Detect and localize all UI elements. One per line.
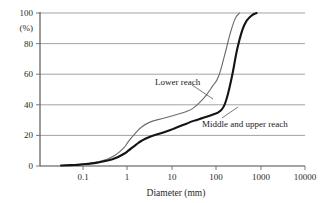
x-tick-label-10: 10: [168, 172, 178, 182]
y-axis-unit-label: (%): [20, 23, 34, 33]
x-tick-label-1000: 1000: [252, 172, 271, 182]
x-tick-label-1: 1: [125, 172, 130, 182]
y-tick-marks: [36, 13, 40, 166]
y-tick-label-60: 60: [24, 69, 34, 79]
chart-container: 100 80 60 40 20 0 (%) 0.1 1 10 100 1000 …: [0, 0, 332, 203]
annotation-lower-reach: Lower reach: [155, 77, 201, 87]
x-tick-label-10000: 10000: [294, 172, 317, 182]
y-tick-label-80: 80: [24, 39, 34, 49]
leader-line-lower-reach: [192, 85, 213, 99]
y-tick-label-0: 0: [29, 161, 34, 171]
leader-line-middle-upper-reach: [222, 107, 238, 118]
annotation-middle-upper-reach: Middle and upper reach: [202, 119, 288, 129]
x-axis-title: Diameter (mm): [147, 188, 206, 199]
x-tick-label-0.1: 0.1: [77, 172, 88, 182]
grain-size-distribution-chart: 100 80 60 40 20 0 (%) 0.1 1 10 100 1000 …: [0, 0, 332, 203]
y-tick-label-100: 100: [20, 8, 34, 18]
y-tick-label-20: 20: [24, 130, 34, 140]
gridlines: [40, 13, 305, 135]
x-tick-marks: [83, 166, 305, 170]
x-tick-label-100: 100: [209, 172, 223, 182]
x-tick-labels: 0.1 1 10 100 1000 10000: [77, 172, 316, 182]
series-line-lower-reach: [61, 13, 240, 166]
y-tick-label-40: 40: [24, 100, 34, 110]
series-line-middle-upper-reach: [61, 13, 256, 166]
